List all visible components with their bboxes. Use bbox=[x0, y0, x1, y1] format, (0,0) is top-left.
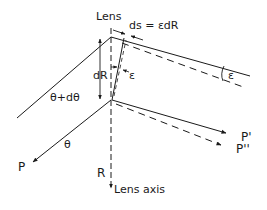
ray-to-P bbox=[33, 100, 111, 162]
ray-to-P-double-prime bbox=[116, 104, 221, 145]
label-theta: θ bbox=[64, 138, 71, 151]
ds-arrow-right bbox=[131, 36, 143, 40]
tilted-lens-segment bbox=[112, 38, 124, 100]
label-P: P bbox=[18, 160, 25, 174]
ray-to-P-prime bbox=[112, 100, 226, 133]
label-lens-axis: Lens axis bbox=[114, 183, 165, 196]
label-theta-plus-dtheta: θ+dθ bbox=[50, 91, 80, 104]
lens-ray-diagram: Lens ds = εdR ε ε dR θ+dθ θ P P' P'' R L… bbox=[0, 0, 267, 210]
label-epsilon-inner: ε bbox=[129, 69, 135, 82]
label-dR: dR bbox=[93, 69, 108, 82]
ds-arrow-left bbox=[113, 30, 125, 34]
label-lens: Lens bbox=[96, 10, 122, 23]
label-ds-equation: ds = εdR bbox=[129, 19, 179, 32]
label-epsilon-outer: ε bbox=[228, 69, 234, 82]
tilted-lens-segment-dashed bbox=[114, 40, 126, 96]
label-P-double-prime: P'' bbox=[236, 142, 250, 156]
label-R: R bbox=[97, 166, 105, 180]
